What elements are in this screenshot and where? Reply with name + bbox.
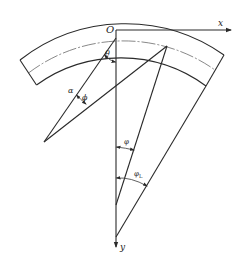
origin-label: O bbox=[106, 24, 114, 35]
band-right-edge bbox=[206, 55, 224, 86]
diagram: O x y θ α ϕ φ φL bbox=[0, 0, 248, 262]
phi-L-arc bbox=[117, 178, 148, 186]
phi-label: φ bbox=[124, 138, 129, 146]
diagram-canvas: O x y θ α ϕ φ φL bbox=[0, 0, 248, 262]
curved-band bbox=[20, 24, 224, 86]
phi-arc bbox=[117, 147, 135, 150]
center-line-arc bbox=[29, 41, 216, 73]
angle-markers: θ α ϕ φ φL bbox=[68, 49, 147, 186]
theta-label: θ bbox=[105, 49, 110, 58]
x-axis-label: x bbox=[218, 18, 223, 28]
phi-small-label: ϕ bbox=[82, 93, 88, 102]
axes: O x y bbox=[106, 18, 231, 252]
line-phi bbox=[116, 46, 167, 205]
chord-line-alpha bbox=[44, 46, 167, 142]
band-left-edge bbox=[20, 60, 37, 85]
outer-arc bbox=[20, 24, 224, 60]
phi-L-label: φL bbox=[134, 170, 143, 179]
y-axis-label: y bbox=[119, 242, 126, 252]
alpha-label: α bbox=[68, 86, 74, 95]
